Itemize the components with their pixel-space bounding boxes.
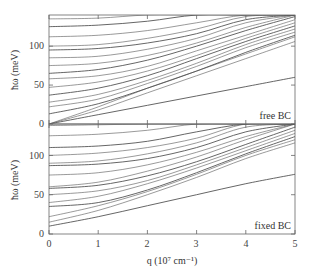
bottom-ytick-100: 100 bbox=[29, 150, 44, 161]
dispersion-curve bbox=[49, 123, 295, 155]
dispersion-curve bbox=[49, 35, 295, 114]
bottom-ytick-0: 0 bbox=[39, 228, 44, 239]
top-panel: 0 50 100 ħω (meV) free BC bbox=[9, 14, 295, 129]
dispersion-curve bbox=[49, 15, 295, 46]
dispersion-curve bbox=[49, 137, 295, 207]
x-tick-labels: 0 1 2 3 4 5 bbox=[47, 238, 298, 249]
dispersion-curve bbox=[49, 143, 295, 222]
top-curves bbox=[49, 14, 295, 124]
free-bc-label: free BC bbox=[260, 110, 292, 121]
dispersion-curve bbox=[49, 29, 295, 102]
top-ytick-50: 50 bbox=[34, 79, 44, 90]
bottom-y-axis-label: ħω (meV) bbox=[9, 160, 21, 200]
xtick-3: 3 bbox=[194, 238, 199, 249]
bottom-panel: 0 50 100 ħω (meV) fixed BC bbox=[9, 123, 295, 239]
top-y-axis-label: ħω (meV) bbox=[9, 50, 21, 90]
bottom-ytick-50: 50 bbox=[34, 189, 44, 200]
dispersion-curve bbox=[49, 140, 295, 217]
xtick-0: 0 bbox=[47, 238, 52, 249]
dispersion-curve bbox=[49, 26, 295, 95]
dispersion-curve bbox=[49, 23, 295, 88]
top-ytick-100: 100 bbox=[29, 40, 44, 51]
dispersion-curve bbox=[49, 32, 295, 107]
bottom-curves bbox=[49, 123, 295, 226]
xtick-1: 1 bbox=[96, 238, 101, 249]
dispersion-curve bbox=[49, 15, 295, 58]
fixed-bc-label: fixed BC bbox=[255, 220, 292, 231]
dispersion-curve bbox=[49, 124, 295, 166]
x-axis-label: q (10⁷ cm⁻¹) bbox=[147, 255, 198, 267]
top-ytick-0: 0 bbox=[39, 118, 44, 129]
xtick-4: 4 bbox=[244, 238, 249, 249]
xtick-5: 5 bbox=[293, 238, 298, 249]
dispersion-chart: 0 50 100 ħω (meV) free BC 0 50 100 ħω (m… bbox=[0, 0, 312, 274]
xtick-2: 2 bbox=[145, 238, 150, 249]
